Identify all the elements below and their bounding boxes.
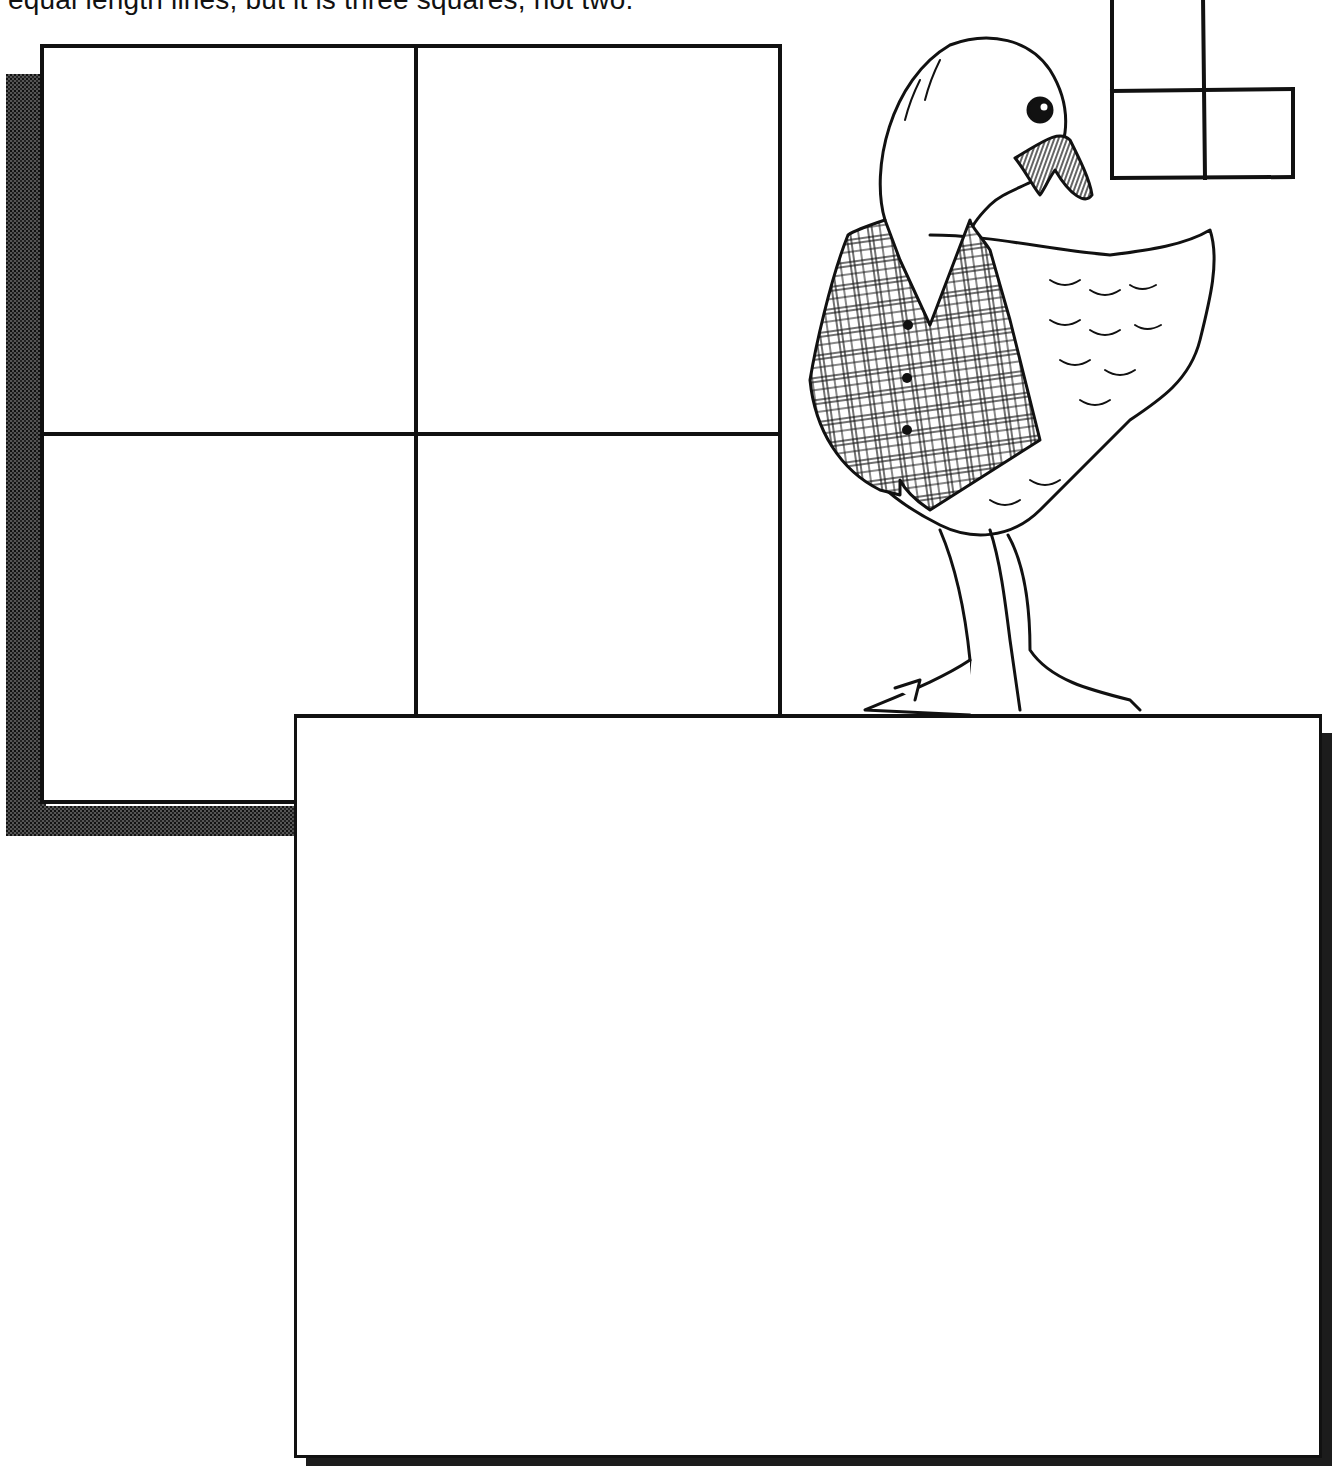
grid-vertical-line <box>414 48 418 800</box>
four-square-grid <box>40 44 782 804</box>
grid-horizontal-line <box>44 432 778 436</box>
goose-illustration <box>790 20 1230 720</box>
answer-drawing-box[interactable] <box>294 714 1322 1458</box>
instruction-text: equal length lines, but it is three squa… <box>8 0 633 16</box>
